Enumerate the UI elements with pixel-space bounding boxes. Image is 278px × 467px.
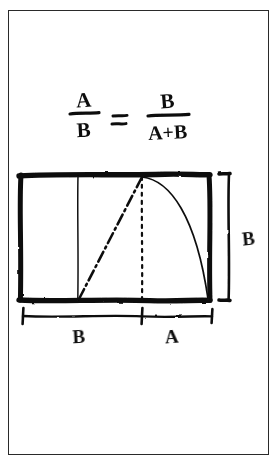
dimension-baseline xyxy=(23,316,212,317)
equation-left-denominator: B xyxy=(76,118,91,143)
diagonal-dash-dot-line xyxy=(79,177,142,299)
construction-arc xyxy=(142,177,208,299)
height-label-b: B xyxy=(241,227,256,249)
dimension-tick-left xyxy=(23,308,24,324)
rectangle-left-edge xyxy=(20,175,21,300)
rectangle-right-edge xyxy=(209,175,210,300)
equation-equals-top xyxy=(113,115,127,116)
equation-right-denominator: A+B xyxy=(147,120,187,144)
equation-right-fraction-bar xyxy=(148,114,189,116)
sketch-page: A B B A+B xyxy=(0,0,278,467)
segment-label-b-bottom: B xyxy=(72,326,86,348)
width-dimension-line xyxy=(23,308,213,324)
dimension-tick-right xyxy=(212,309,213,323)
segment-label-a-bottom: A xyxy=(164,326,179,348)
construction-lines xyxy=(78,176,208,300)
equation-left-numerator: A xyxy=(75,87,93,112)
rectangle-bottom-edge xyxy=(19,300,210,301)
dimension-tick-middle xyxy=(142,308,143,324)
equation-left-fraction-bar xyxy=(70,113,99,114)
equation-group: A B B A+B xyxy=(70,87,189,144)
hand-drawn-diagram: A B B A+B xyxy=(0,0,278,467)
equation-right-numerator: B xyxy=(159,88,175,113)
bracket-vertical-stem xyxy=(228,174,229,300)
main-rectangle xyxy=(19,174,210,301)
rectangle-top-edge xyxy=(19,174,210,176)
height-bracket-right xyxy=(219,174,230,301)
